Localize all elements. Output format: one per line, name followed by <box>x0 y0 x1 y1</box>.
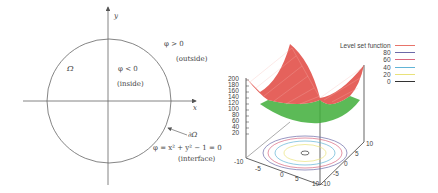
legend-item-20: 20 <box>340 71 415 78</box>
z-axis-ticks <box>246 80 249 134</box>
legend-item-80: 80 <box>340 49 415 56</box>
x-axis-label: x <box>193 104 197 112</box>
x-tick: 5 <box>295 175 299 182</box>
inside-label: (inside) <box>117 80 144 88</box>
legend-item-40: 40 <box>340 64 415 71</box>
schematic-graphics <box>0 0 220 193</box>
contour-lines <box>263 136 347 170</box>
level-set-surface-plot: Level set function 80 60 40 20 0 200 180… <box>220 0 438 193</box>
x-tick: 10 <box>312 180 319 187</box>
x-tick: 0 <box>280 171 284 178</box>
plot-legend: Level set function 80 60 40 20 0 <box>340 42 415 85</box>
y-tick: 5 <box>355 150 359 157</box>
boundary-pointer <box>168 128 187 135</box>
inside-equation: φ < 0 <box>118 65 138 73</box>
legend-item-surface: Level set function <box>340 42 415 49</box>
z-tick: 20 <box>232 129 239 136</box>
y-tick: -10 <box>321 180 330 187</box>
level-set-schematic: y x Ω φ < 0 (inside) φ > 0 (outside) ∂Ω … <box>0 0 220 193</box>
interface-equation: φ = x² + y² − 1 = 0 <box>153 144 222 152</box>
legend-item-60: 60 <box>340 56 415 63</box>
x-tick: -10 <box>234 158 243 165</box>
outside-label: (outside) <box>176 55 207 63</box>
boundary-label: ∂Ω <box>188 131 197 139</box>
y-tick: -5 <box>333 170 339 177</box>
x-tick: -5 <box>255 165 261 172</box>
y-axis-label: y <box>114 12 118 20</box>
y-tick: 0 <box>344 160 348 167</box>
surface-graphics <box>220 0 438 193</box>
y-tick: 10 <box>366 140 373 147</box>
domain-omega-label: Ω <box>67 64 74 73</box>
outside-equation: φ > 0 <box>164 40 184 48</box>
interface-label: (interface) <box>178 155 215 163</box>
legend-item-0: 0 <box>340 78 415 85</box>
